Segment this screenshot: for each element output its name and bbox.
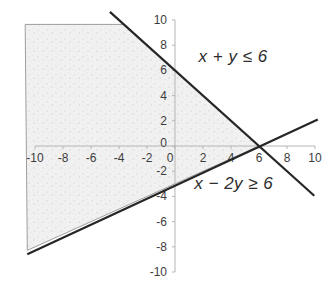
y-axis-tick-label: 0 (160, 136, 167, 150)
x-axis-tick-label: -8 (58, 151, 69, 165)
y-axis-tick-label: 10 (154, 13, 168, 27)
x-axis-tick-label: 10 (308, 151, 322, 165)
plot-area: -10-8-6-4-20246810-10-8-6-4-20246810 (0, 0, 332, 300)
y-axis-tick-label: 2 (160, 114, 167, 128)
x-axis-tick-label: -4 (114, 151, 125, 165)
y-axis-tick-label: 4 (160, 89, 167, 103)
x-axis-tick-label: -2 (142, 151, 153, 165)
x-axis-tick-label: -10 (26, 151, 44, 165)
y-axis-tick-label: -2 (156, 164, 167, 178)
x-axis-tick-label: 6 (256, 151, 263, 165)
x-axis-tick-label: 0 (167, 151, 174, 165)
y-axis-tick-label: -10 (150, 265, 168, 279)
feasible-region (25, 24, 259, 250)
y-axis-tick-label: 8 (160, 38, 167, 52)
y-axis-tick-label: -6 (156, 215, 167, 229)
x-axis-tick-label: 2 (200, 151, 207, 165)
inequality-graph: -10-8-6-4-20246810-10-8-6-4-20246810 x +… (0, 0, 332, 300)
y-axis-tick-label: 6 (160, 63, 167, 77)
y-axis-tick-label: -8 (156, 240, 167, 254)
x-axis-tick-label: -6 (86, 151, 97, 165)
x-axis-tick-label: 8 (284, 151, 291, 165)
shaded-region-layer (25, 24, 259, 250)
